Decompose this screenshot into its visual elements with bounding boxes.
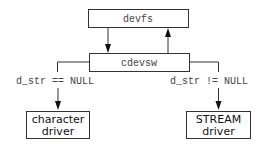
arrowhead-down-icon xyxy=(55,101,61,110)
right-condition-label: d_str != NULL xyxy=(170,76,248,87)
arrowhead-down-icon xyxy=(105,44,111,53)
devfs-cdevsw-diagram: devfs cdevsw d_str == NULL character dri… xyxy=(0,0,275,152)
stream-driver-node: STREAM driver xyxy=(187,112,251,139)
devfs-node: devfs xyxy=(89,10,189,28)
cdevsw-label: cdevsw xyxy=(121,58,157,69)
arrowhead-down-icon xyxy=(216,101,222,110)
stream-driver-line2: driver xyxy=(202,125,235,138)
character-driver-line2: driver xyxy=(42,125,75,138)
left-condition-label: d_str == NULL xyxy=(16,76,94,87)
devfs-label: devfs xyxy=(123,14,153,25)
character-driver-node: character driver xyxy=(27,112,90,139)
left-branch-line xyxy=(58,62,90,72)
cdevsw-node: cdevsw xyxy=(90,54,190,72)
right-branch-line xyxy=(189,62,219,72)
arrowhead-up-icon xyxy=(165,28,171,37)
